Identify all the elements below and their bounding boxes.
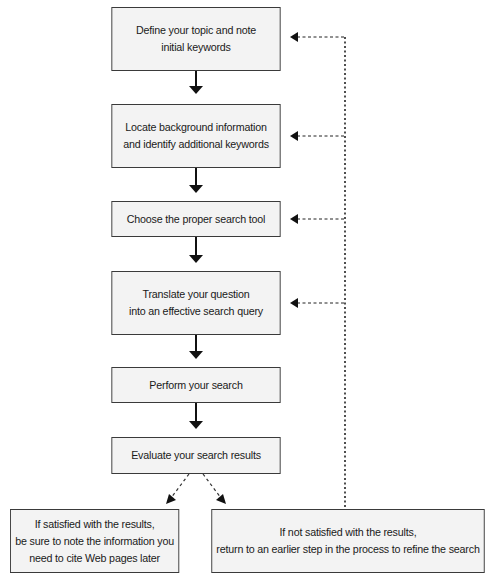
step-label: Locate background information and identi… [123, 119, 269, 153]
outcome-not-satisfied: If not satisfied with the results, retur… [211, 509, 484, 573]
arrow-down-icon [189, 351, 203, 359]
step-label: Translate your question into an effectiv… [129, 286, 263, 320]
outcome-label: If not satisfied with the results, retur… [216, 524, 479, 558]
feedback-arrowheads [290, 32, 298, 308]
step-perform-search: Perform your search [111, 367, 280, 403]
step-label: Choose the proper search tool [127, 211, 265, 228]
step-label: Perform your search [149, 377, 242, 394]
step-translate-question: Translate your question into an effectiv… [111, 271, 280, 335]
arrow-left-icon [290, 131, 298, 141]
branch-arrows [171, 474, 221, 498]
arrow-left-icon [290, 214, 298, 224]
arrow-down-icon [189, 255, 203, 263]
step-evaluate-results: Evaluate your search results [111, 437, 280, 474]
arrow-down-right-icon [216, 494, 226, 504]
arrow-down-icon [189, 421, 203, 429]
step-locate-background: Locate background information and identi… [111, 104, 280, 168]
arrow-left-icon [290, 32, 298, 42]
feedback-loop [297, 37, 345, 509]
arrow-down-icon [189, 185, 203, 193]
arrow-down-left-icon [166, 494, 176, 504]
outcome-label: If satisfied with the results, be sure t… [15, 516, 174, 567]
outcome-satisfied: If satisfied with the results, be sure t… [10, 509, 179, 573]
arrow-left-icon [290, 298, 298, 308]
step-label: Define your topic and note initial keywo… [136, 22, 256, 56]
step-label: Evaluate your search results [131, 447, 261, 464]
step-choose-tool: Choose the proper search tool [111, 201, 280, 237]
arrow-down-icon [189, 86, 203, 94]
step-define-topic: Define your topic and note initial keywo… [111, 7, 280, 71]
